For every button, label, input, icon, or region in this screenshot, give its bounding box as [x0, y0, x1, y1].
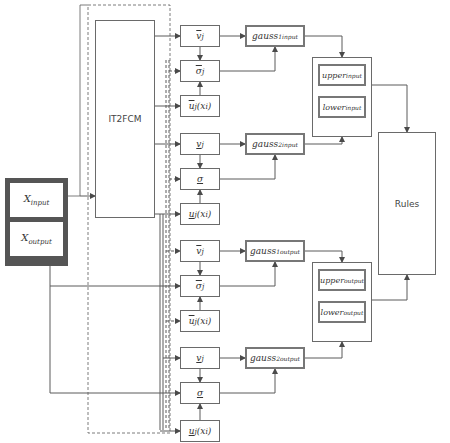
x-input-label: Xinput: [24, 193, 50, 207]
v-upper-output-box: vj: [180, 240, 220, 262]
lower-output-box: loweroutput: [318, 301, 366, 323]
gauss2-input-box: gauss2input: [245, 133, 305, 155]
x-output-label: Xoutput: [21, 232, 51, 246]
u-lower-output-box: uj(xi): [180, 420, 220, 442]
v-upper-input-box: vj: [180, 25, 220, 47]
rules-block: Rules: [378, 132, 436, 275]
sigma-lower-input-box: σ: [180, 168, 220, 190]
x-output-cell: Xoutput: [10, 222, 63, 256]
upper-input-box: upperinput: [318, 64, 366, 86]
x-input-cell: Xinput: [10, 183, 63, 217]
gauss1-input-box: gauss1input: [245, 25, 305, 47]
rules-label: Rules: [395, 199, 419, 209]
it2fcm-label: IT2FCM: [108, 114, 141, 124]
gauss1-output-box: gauss1output: [245, 240, 305, 262]
it2fcm-block: IT2FCM: [95, 20, 155, 218]
sigma-upper-input-box: σj: [180, 60, 220, 82]
input-bounds-block: upperinput lowerinput: [312, 57, 372, 137]
u-upper-input-box: uj(xi): [180, 95, 220, 117]
gauss2-output-box: gauss2output: [245, 347, 305, 369]
u-upper-output-box: uj(xi): [180, 310, 220, 332]
v-lower-input-box: vj: [180, 133, 220, 155]
input-data-block: Xinput Xoutput: [5, 178, 68, 266]
upper-output-box: upperoutput: [318, 269, 366, 291]
sigma-lower-output-box: σ: [180, 382, 220, 404]
output-bounds-block: upperoutput loweroutput: [312, 262, 372, 342]
u-lower-input-box: uj(xi): [180, 203, 220, 225]
lower-input-box: lowerinput: [318, 96, 366, 118]
sigma-upper-output-box: σj: [180, 275, 220, 297]
v-lower-output-box: vj: [180, 347, 220, 369]
